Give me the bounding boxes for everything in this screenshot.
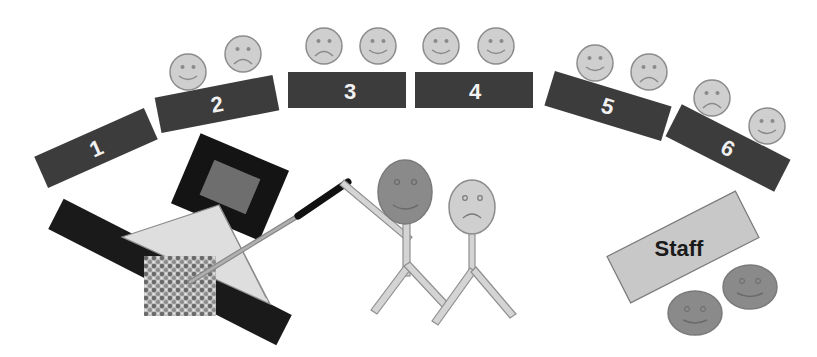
teacher-head	[378, 160, 432, 224]
smile-face-icon	[170, 54, 206, 90]
smile-face-icon	[478, 28, 514, 64]
smile-face-icon	[577, 45, 613, 81]
smile-face-icon	[423, 28, 459, 64]
frown-face-icon	[694, 80, 730, 116]
student-head	[449, 180, 495, 234]
table-1: 1	[34, 108, 157, 188]
smile-face-icon	[749, 108, 785, 144]
frown-face-icon	[306, 28, 342, 64]
textured-board	[144, 256, 216, 316]
smile-face-icon	[360, 28, 396, 64]
classroom-diagram: 1 2 3 4 5 6	[0, 0, 817, 357]
staff-face-2	[723, 265, 777, 309]
staff-face-1	[668, 291, 722, 335]
table-label: 3	[344, 79, 356, 104]
frown-face-icon	[631, 54, 667, 90]
teacher-figure	[340, 160, 450, 314]
table-4: 4	[415, 72, 533, 108]
frown-face-icon	[225, 36, 261, 72]
student-figure	[432, 180, 516, 325]
table-label: 4	[469, 79, 482, 104]
table-3: 3	[288, 72, 406, 108]
staff-label: Staff	[655, 236, 705, 261]
